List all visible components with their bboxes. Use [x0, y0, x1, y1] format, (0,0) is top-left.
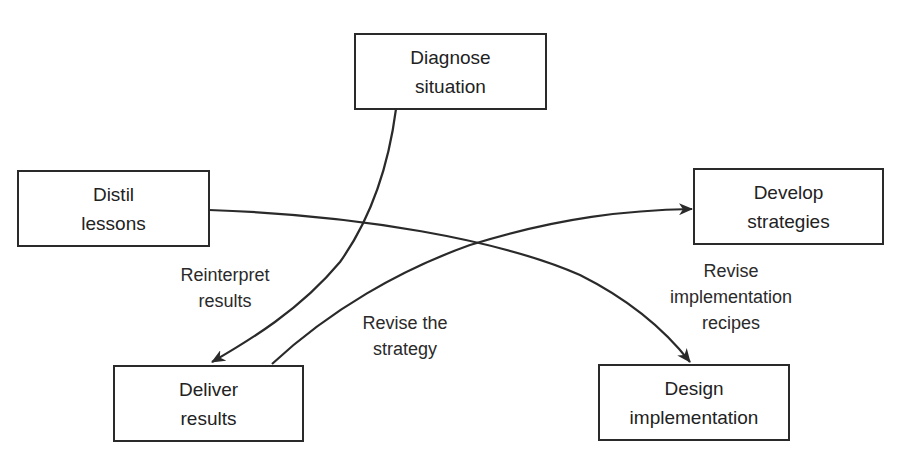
node-label-line2: situation: [415, 72, 486, 101]
edge-label-line1: Revise: [658, 258, 804, 284]
node-label-line1: Distil: [93, 180, 134, 209]
edge-label-line1: Revise the: [350, 310, 460, 336]
edge-label-reinterpret-results: Reinterpret results: [170, 262, 280, 314]
edge-label-revise-implementation-recipes: Revise implementation recipes: [658, 258, 804, 336]
node-deliver-results: Deliver results: [113, 365, 304, 442]
node-distil-lessons: Distil lessons: [17, 170, 210, 247]
node-label-line2: results: [181, 404, 237, 433]
edge-label-line2: implementation: [658, 284, 804, 310]
node-label-line1: Design: [664, 374, 723, 403]
node-design-implementation: Design implementation: [598, 364, 790, 441]
edge-label-line2: results: [170, 288, 280, 314]
node-develop-strategies: Develop strategies: [693, 168, 884, 245]
edge-label-revise-the-strategy: Revise the strategy: [350, 310, 460, 362]
arrow-deliver-to-develop: [272, 209, 692, 364]
node-label-line1: Deliver: [179, 375, 238, 404]
node-label-line2: implementation: [630, 403, 759, 432]
edge-label-line2: strategy: [350, 336, 460, 362]
edge-label-line1: Reinterpret: [170, 262, 280, 288]
node-label-line1: Develop: [754, 178, 824, 207]
node-label-line2: strategies: [747, 207, 829, 236]
node-label-line1: Diagnose: [410, 43, 490, 72]
edge-label-line3: recipes: [658, 310, 804, 336]
node-label-line2: lessons: [81, 209, 145, 238]
node-diagnose-situation: Diagnose situation: [354, 33, 547, 110]
